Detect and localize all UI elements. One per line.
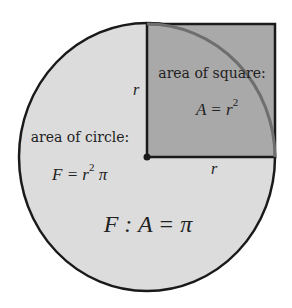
- ratio-formula: F : A = π: [103, 211, 194, 237]
- square-formula: A = r2: [195, 96, 238, 119]
- radius-label-vertical: r: [133, 81, 140, 98]
- square-shape: [147, 24, 275, 157]
- center-point: [144, 154, 151, 161]
- circle-label: area of circle:: [31, 129, 130, 145]
- radius-label-horizontal: r: [211, 160, 218, 177]
- circle-square-diagram: area of square: A = r2 r r area of circl…: [0, 0, 292, 308]
- square-label: area of square:: [158, 65, 265, 81]
- circle-formula: F = r2 π: [51, 161, 108, 184]
